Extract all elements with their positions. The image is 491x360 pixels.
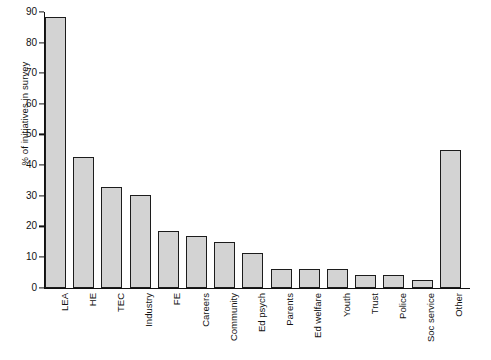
x-tick-label: Community: [225, 293, 235, 341]
bar: [186, 236, 207, 288]
bar: [355, 275, 376, 287]
y-tick-label: 40: [26, 160, 37, 170]
x-tick-label-slot: HE: [73, 293, 94, 359]
y-tick-mark: [39, 165, 44, 166]
x-tick-label-slot: LEA: [45, 293, 66, 359]
x-tick-label-slot: Soc service: [412, 293, 433, 359]
y-tick-label: 60: [26, 99, 37, 109]
x-tick-label: Youth: [338, 293, 348, 317]
y-tick-mark: [39, 226, 44, 227]
bar: [412, 280, 433, 288]
y-tick-label: 80: [26, 38, 37, 48]
bar: [299, 269, 320, 287]
y-tick-label: 10: [26, 252, 37, 262]
x-tick-label: Ed psych: [253, 293, 263, 332]
y-tick-label: 50: [26, 129, 37, 139]
y-tick-mark: [39, 42, 44, 43]
bar: [383, 275, 404, 287]
x-tick-label-slot: Police: [383, 293, 404, 359]
y-tick-label: 0: [31, 283, 37, 293]
x-tick-label-slot: Youth: [327, 293, 348, 359]
y-tick-mark: [39, 134, 44, 135]
y-tick-mark: [39, 103, 44, 104]
bar: [214, 242, 235, 288]
y-tick-mark: [39, 195, 44, 196]
bar: [242, 253, 263, 288]
y-tick-label: 30: [26, 191, 37, 201]
x-tick-label-slot: FE: [158, 293, 179, 359]
y-tick-label: 70: [26, 68, 37, 78]
x-tick-label: TEC: [112, 293, 122, 312]
bar: [271, 269, 292, 287]
bar: [73, 157, 94, 287]
x-tick-label: Other: [450, 293, 460, 317]
x-tick-label-slot: Ed psych: [242, 293, 263, 359]
x-tick-label-slot: Careers: [186, 293, 207, 359]
x-tick-label-slot: Parents: [271, 293, 292, 359]
bar-series: [45, 12, 470, 288]
bar-chart: % of initiatives in survey 0102030405060…: [0, 0, 491, 360]
x-axis-line: [44, 288, 470, 289]
x-tick-label: Careers: [197, 293, 207, 327]
bar: [327, 269, 348, 287]
x-tick-label: Ed welfare: [309, 293, 319, 338]
x-tick-label-slot: Trust: [355, 293, 376, 359]
bar: [158, 231, 179, 288]
x-tick-label: Industry: [140, 293, 150, 327]
bar: [45, 17, 66, 288]
x-tick-label-slot: TEC: [101, 293, 122, 359]
x-tick-label: Police: [394, 293, 404, 319]
y-tick-mark: [39, 11, 44, 12]
y-axis-title: % of initiatives in survey: [19, 24, 30, 204]
x-tick-label-slot: Ed welfare: [299, 293, 320, 359]
bar: [130, 195, 151, 288]
x-tick-label-slot: Community: [214, 293, 235, 359]
y-tick-mark: [39, 256, 44, 257]
x-tick-label: FE: [168, 293, 178, 305]
bar: [101, 187, 122, 288]
x-tick-label: Parents: [281, 293, 291, 326]
y-tick-label: 20: [26, 221, 37, 231]
plot-area: 0102030405060708090: [44, 12, 470, 289]
y-tick-label: 90: [26, 7, 37, 17]
bar: [440, 150, 461, 288]
y-tick-mark: [39, 73, 44, 74]
y-tick-mark: [39, 287, 44, 288]
x-tick-label: LEA: [56, 293, 66, 311]
x-tick-label: HE: [84, 293, 94, 306]
x-tick-label: Trust: [366, 293, 376, 314]
x-tick-label-slot: Industry: [130, 293, 151, 359]
x-tick-label-slot: Other: [440, 293, 461, 359]
x-tick-label: Soc service: [422, 293, 432, 342]
x-axis-tick-labels: LEAHETECIndustryFECareersCommunityEd psy…: [45, 293, 471, 360]
